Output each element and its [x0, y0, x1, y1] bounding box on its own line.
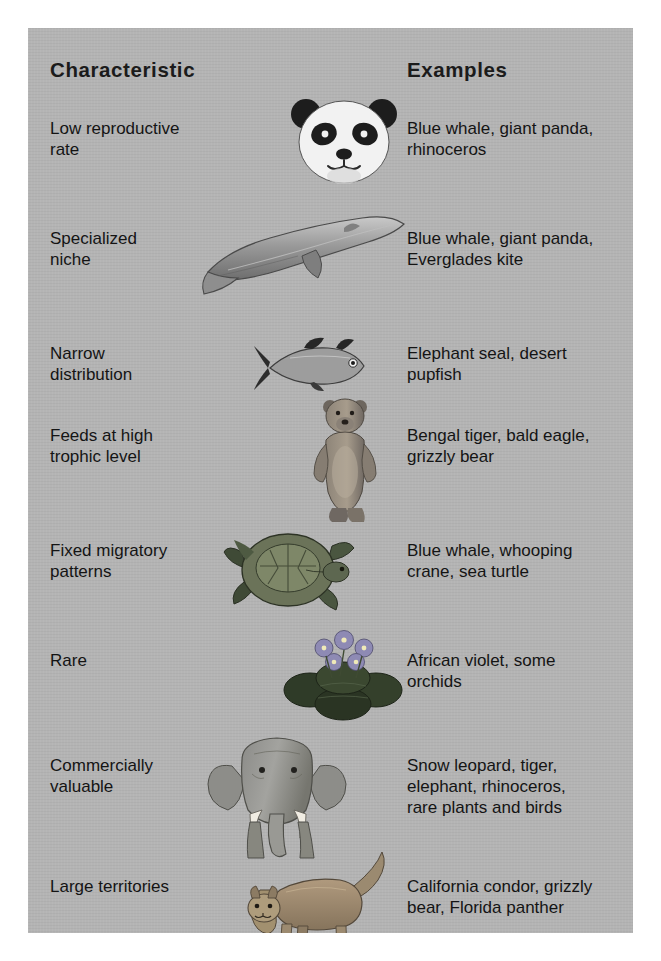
examples-line: elephant, rhinoceros,	[407, 776, 632, 797]
examples-line: rare plants and birds	[407, 797, 632, 818]
examples-line: Bengal tiger, bald eagle,	[407, 425, 632, 446]
row-characteristic: Narrow distribution	[50, 343, 255, 385]
row-characteristic: Commercially valuable	[50, 755, 255, 797]
examples-line: pupfish	[407, 364, 632, 385]
characteristic-line: Feeds at high	[50, 425, 255, 446]
characteristic-line: Narrow	[50, 343, 255, 364]
examples-line: Elephant seal, desert	[407, 343, 632, 364]
examples-line: Blue whale, giant panda,	[407, 118, 632, 139]
column-header-row: Characteristic Examples	[28, 28, 633, 84]
characteristic-line: Commercially	[50, 755, 255, 776]
characteristic-line: niche	[50, 249, 255, 270]
row-examples: Snow leopard, tiger, elephant, rhinocero…	[407, 755, 632, 818]
row-characteristic: Specialized niche	[50, 228, 255, 270]
row-characteristic: Low reproductive rate	[50, 118, 255, 160]
examples-line: Everglades kite	[407, 249, 632, 270]
grizzly-bear-illustration	[290, 386, 400, 526]
illustration-column	[178, 28, 413, 933]
row-examples: Blue whale, giant panda, Everglades kite	[407, 228, 632, 270]
row-examples: Elephant seal, desert pupfish	[407, 343, 632, 385]
examples-line: Snow leopard, tiger,	[407, 755, 632, 776]
row-characteristic: Large territories	[50, 876, 255, 897]
row-examples: Blue whale, giant panda, rhinoceros	[407, 118, 632, 160]
row-characteristic: Fixed migratory patterns	[50, 540, 255, 582]
examples-line: orchids	[407, 671, 632, 692]
row-characteristic: Rare	[50, 650, 255, 671]
row-examples: Blue whale, whooping crane, sea turtle	[407, 540, 632, 582]
characteristic-line: rate	[50, 139, 255, 160]
florida-panther-illustration	[236, 846, 406, 933]
characteristic-line: valuable	[50, 776, 255, 797]
examples-line: rhinoceros	[407, 139, 632, 160]
examples-line: California condor, grizzly	[407, 876, 632, 897]
examples-line: Blue whale, whooping	[407, 540, 632, 561]
figure-panel: Characteristic Examples	[28, 28, 633, 933]
characteristic-line: trophic level	[50, 446, 255, 467]
characteristic-line: Large territories	[50, 876, 255, 897]
characteristic-line: Low reproductive	[50, 118, 255, 139]
characteristic-line: Fixed migratory	[50, 540, 255, 561]
examples-line: crane, sea turtle	[407, 561, 632, 582]
column-header-characteristic: Characteristic	[50, 58, 195, 82]
african-violet-illustration	[280, 620, 410, 730]
desert-pupfish-illustration	[250, 328, 390, 400]
examples-line: grizzly bear	[407, 446, 632, 467]
examples-line: bear, Florida panther	[407, 897, 632, 918]
characteristic-line: distribution	[50, 364, 255, 385]
row-examples: Bengal tiger, bald eagle, grizzly bear	[407, 425, 632, 467]
row-examples: California condor, grizzly bear, Florida…	[407, 876, 632, 918]
giant-panda-head-illustration	[280, 90, 410, 195]
row-characteristic: Feeds at high trophic level	[50, 425, 255, 467]
column-header-examples: Examples	[407, 58, 508, 82]
characteristic-line: Specialized	[50, 228, 255, 249]
examples-line: African violet, some	[407, 650, 632, 671]
row-examples: African violet, some orchids	[407, 650, 632, 692]
characteristic-line: Rare	[50, 650, 255, 671]
examples-line: Blue whale, giant panda,	[407, 228, 632, 249]
characteristic-line: patterns	[50, 561, 255, 582]
